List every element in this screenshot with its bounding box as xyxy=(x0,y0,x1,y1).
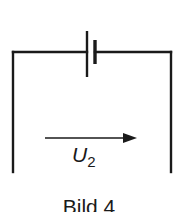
circuit-diagram xyxy=(0,0,178,212)
voltage-subscript: 2 xyxy=(87,153,95,170)
voltage-symbol: U xyxy=(72,143,87,166)
figure-caption: Bild 4 xyxy=(0,196,178,212)
voltage-arrow-icon xyxy=(45,133,137,143)
battery-icon xyxy=(87,31,95,77)
voltage-label: U2 xyxy=(72,144,96,169)
